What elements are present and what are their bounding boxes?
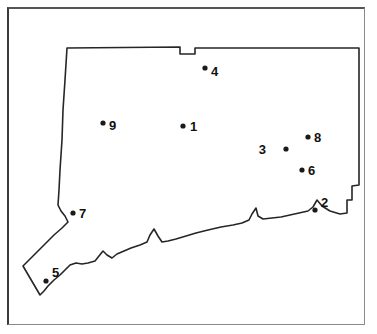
site-dot-icon [43, 278, 48, 283]
site-label: 9 [109, 118, 116, 133]
site-dot-icon [305, 134, 310, 139]
site-dot-icon [70, 210, 75, 215]
site-dot-icon [202, 65, 207, 70]
site-label: 8 [314, 130, 321, 145]
map-figure: 123456789 [0, 0, 377, 334]
site-dot-icon [283, 146, 288, 151]
site-dot-icon [100, 120, 105, 125]
site-dot-icon [180, 123, 185, 128]
site-label: 3 [259, 142, 266, 157]
site-label: 2 [321, 195, 328, 210]
site-label: 6 [308, 163, 315, 178]
site-label: 5 [52, 265, 59, 280]
site-label: 4 [211, 64, 219, 79]
site-label: 7 [79, 206, 86, 221]
site-dot-icon [299, 167, 304, 172]
site-dot-icon [312, 207, 317, 212]
site-label: 1 [190, 119, 197, 134]
connecticut-map-svg: 123456789 [0, 0, 377, 334]
